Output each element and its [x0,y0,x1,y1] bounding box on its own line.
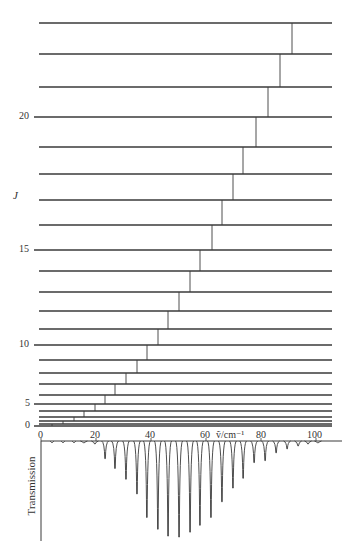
absorption-line [251,441,258,463]
absorption-line [122,441,129,479]
absorption-line [187,441,194,532]
absorption-line [207,441,214,517]
x-tick-80: 80 [256,429,266,440]
absorption-line [218,441,225,502]
absorption-line [143,441,150,517]
absorption-line [154,441,161,529]
x-tick-40: 40 [145,429,155,440]
absorption-line [262,441,269,461]
absorption-line [295,441,302,446]
absorption-line [176,441,183,537]
j-axis-label: J [13,189,18,201]
x-axis-unit-label: ṽ/cm⁻¹ [216,429,244,440]
level-label-10: 10 [19,338,29,349]
x-tick-100: 100 [307,429,322,440]
absorption-line [196,441,203,525]
absorption-line [240,441,247,478]
level-label-15: 15 [19,243,29,254]
absorption-line [284,441,291,449]
absorption-line [133,441,140,494]
level-label-5: 5 [25,397,30,408]
absorption-line [165,441,172,536]
level-label-0: 0 [25,419,30,430]
x-tick-20: 20 [90,429,100,440]
absorption-line [229,441,236,488]
x-tick-60: 60 [200,429,210,440]
x-tick-0: 0 [38,429,43,440]
absorption-line [273,441,280,453]
absorption-line [111,441,118,468]
absorption-line [102,441,109,459]
level-label-20: 20 [19,110,29,121]
energy-level-diagram [0,0,354,558]
transmission-axis-label: Transmission [25,453,37,519]
